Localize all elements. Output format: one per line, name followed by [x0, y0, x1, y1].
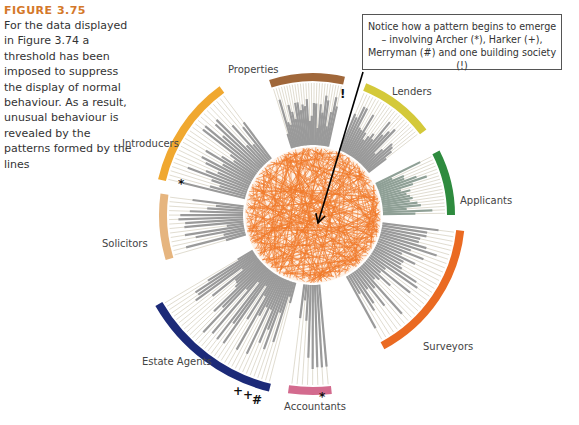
segment-arc — [163, 194, 170, 259]
connection-hub — [245, 147, 381, 283]
marker-archer: * — [319, 390, 325, 404]
segment-label: Surveyors — [423, 341, 473, 352]
marker-archer: * — [178, 177, 184, 191]
segment-arc — [159, 304, 270, 388]
segment-applicants — [376, 152, 451, 215]
segment-lenders — [340, 87, 423, 172]
segment-arc — [436, 152, 451, 215]
segment-label: Lenders — [392, 86, 432, 97]
segment-label: Applicants — [460, 195, 512, 206]
marker-merryman: # — [252, 393, 262, 407]
segment-properties — [270, 77, 344, 148]
marker-building-society: ! — [340, 87, 345, 101]
segment-label: Introducers — [122, 138, 179, 149]
segment-label: Accountants — [284, 401, 346, 412]
segment-label: Solicitors — [102, 238, 148, 249]
segment-estate-agents — [159, 251, 295, 388]
segment-accountants — [289, 284, 332, 391]
callout-box: Notice how a pattern begins to emerge – … — [362, 14, 562, 70]
marker-harker: + — [233, 384, 243, 398]
segment-label: Estate Agents — [142, 356, 212, 367]
segment-solicitors — [163, 194, 246, 259]
segment-label: Properties — [228, 64, 279, 75]
segment-arc — [270, 77, 344, 84]
